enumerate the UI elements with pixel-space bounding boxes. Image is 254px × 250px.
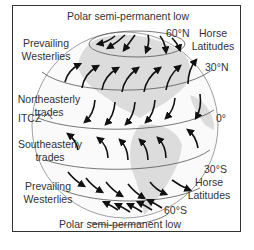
label-line: Prevailing <box>18 180 78 193</box>
southeasterly-trades-label: Southeasterly trades <box>14 138 86 164</box>
itcz-label: ITCZ <box>18 112 41 125</box>
lat-30s-label: 30°S <box>204 163 227 176</box>
label-line: trades <box>14 151 86 164</box>
lat-60n-label: 60°N <box>166 27 189 40</box>
label-line: Northeasterly <box>14 93 84 106</box>
prevailing-westerlies-north-label: Prevailing Westerlies <box>16 37 76 63</box>
horse-latitudes-north-label: Horse Latitudes <box>190 27 236 53</box>
prevailing-westerlies-south-label: Prevailing Westerlies <box>18 180 78 206</box>
label-line: Latitudes <box>190 40 236 53</box>
label-line: Prevailing <box>16 37 76 50</box>
title-bottom-polar-low: Polar semi-permanent low <box>40 218 200 231</box>
lat-60s-label: 60°S <box>164 204 187 217</box>
label-line: Westerlies <box>16 50 76 63</box>
label-line: Westerlies <box>18 193 78 206</box>
lat-30n-label: 30°N <box>205 61 228 74</box>
label-line: Horse <box>190 27 236 40</box>
title-top-polar-low: Polar semi-permanent low <box>48 10 208 23</box>
label-line: Latitudes <box>186 189 232 202</box>
lat-0-label: 0° <box>216 112 226 125</box>
label-line: Horse <box>186 176 232 189</box>
horse-latitudes-south-label: Horse Latitudes <box>186 176 232 202</box>
label-line: Southeasterly <box>14 138 86 151</box>
